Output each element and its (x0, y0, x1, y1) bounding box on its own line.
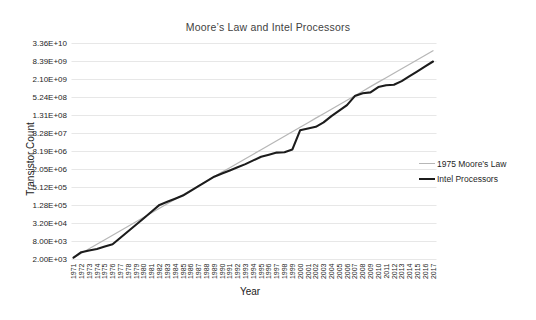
x-tick-label: 1998 (281, 263, 288, 279)
x-tick-label: 1980 (140, 263, 147, 279)
x-tick-label: 2007 (351, 263, 358, 279)
x-tick-label: 1986 (187, 263, 194, 279)
legend-label-intel: Intel Processors (437, 174, 498, 184)
x-tick-label: 1977 (117, 263, 124, 279)
moores-law-chart: 3.36E+108.39E+092.10E+095.24E+081.31E+08… (0, 0, 536, 320)
x-tick-label: 1994 (250, 263, 257, 279)
intel-line-swatch (419, 178, 435, 180)
x-axis-tick-labels: 1971197219731974197519761977197819791980… (70, 263, 437, 279)
x-tick-label: 2016 (422, 263, 429, 279)
x-tick-label: 1976 (109, 263, 116, 279)
y-tick-label: 3.20E+04 (33, 219, 68, 228)
y-tick-label: 1.28E+05 (33, 201, 68, 210)
chart-title: Moore’s Law and Intel Processors (0, 21, 536, 33)
legend: 1975 Moore’s Law Intel Processors (419, 156, 506, 186)
x-tick-label: 2005 (336, 263, 343, 279)
x-tick-label: 1979 (133, 263, 140, 279)
y-tick-label: 8.00E+03 (33, 237, 68, 246)
y-tick-label: 8.39E+09 (33, 57, 68, 66)
y-tick-label: 5.24E+08 (33, 93, 68, 102)
x-tick-label: 1987 (195, 263, 202, 279)
y-tick-label: 2.00E+03 (33, 255, 68, 264)
y-tick-label: 2.05E+06 (33, 165, 68, 174)
x-tick-label: 1991 (226, 263, 233, 279)
x-tick-label: 2004 (328, 263, 335, 279)
series-line-0 (74, 51, 434, 258)
x-tick-label: 1988 (203, 263, 210, 279)
x-tick-label: 1997 (273, 263, 280, 279)
x-tick-label: 2013 (398, 263, 405, 279)
x-axis-title: Year (240, 286, 260, 297)
y-tick-label: 3.28E+07 (33, 129, 68, 138)
legend-label-moores-law: 1975 Moore’s Law (437, 159, 506, 169)
y-tick-label: 2.10E+09 (33, 75, 68, 84)
x-tick-label: 1978 (125, 263, 132, 279)
x-tick-label: 1995 (258, 263, 265, 279)
x-tick-label: 2003 (320, 263, 327, 279)
y-tick-label: 3.36E+10 (33, 39, 68, 48)
x-tick-label: 2008 (359, 263, 366, 279)
legend-item-intel: Intel Processors (419, 171, 506, 186)
x-tick-label: 2001 (305, 263, 312, 279)
x-tick-label: 2015 (414, 263, 421, 279)
legend-item-moores-law: 1975 Moore’s Law (419, 156, 506, 171)
x-tick-label: 1983 (164, 263, 171, 279)
x-tick-label: 2006 (344, 263, 351, 279)
x-tick-label: 1972 (78, 263, 85, 279)
moores-law-line-swatch (419, 163, 435, 164)
x-tick-label: 1971 (70, 263, 77, 279)
y-axis-title: Transistor Count (25, 122, 36, 196)
x-tick-label: 2017 (430, 263, 437, 279)
series-line-1 (74, 62, 434, 258)
x-tick-label: 1989 (211, 263, 218, 279)
x-tick-label: 2000 (297, 263, 304, 279)
x-tick-label: 2010 (375, 263, 382, 279)
x-tick-label: 2014 (406, 263, 413, 279)
x-tick-label: 1990 (219, 263, 226, 279)
x-tick-label: 1999 (289, 263, 296, 279)
x-tick-label: 2009 (367, 263, 374, 279)
x-tick-label: 1975 (101, 263, 108, 279)
y-tick-label: 5.12E+05 (33, 183, 68, 192)
x-tick-label: 1996 (265, 263, 272, 279)
x-tick-label: 2011 (383, 263, 390, 278)
x-tick-label: 1981 (148, 263, 155, 279)
y-tick-label: 8.19E+06 (33, 147, 68, 156)
x-tick-label: 2012 (391, 263, 398, 279)
x-tick-label: 2002 (312, 263, 319, 279)
x-tick-label: 1993 (242, 263, 249, 279)
x-tick-label: 1984 (172, 263, 179, 279)
x-tick-label: 1973 (86, 263, 93, 279)
y-tick-label: 1.31E+08 (33, 111, 68, 120)
x-tick-label: 1985 (180, 263, 187, 279)
x-tick-label: 1974 (94, 263, 101, 279)
x-tick-label: 1982 (156, 263, 163, 279)
y-axis-tick-labels: 3.36E+108.39E+092.10E+095.24E+081.31E+08… (33, 39, 68, 264)
x-tick-label: 1992 (234, 263, 241, 279)
